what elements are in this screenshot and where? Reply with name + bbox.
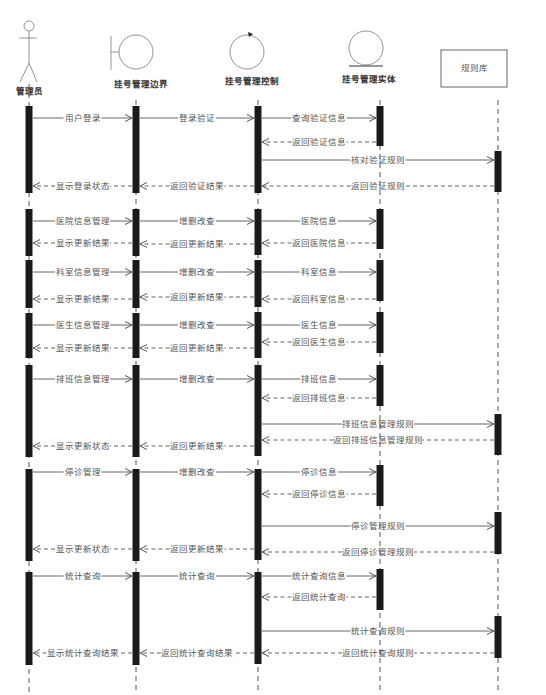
message-label: 排班信息管理规则 [342, 419, 414, 429]
message-label: 返回停诊管理规则 [342, 547, 414, 557]
message-label: 返回更新结果 [170, 343, 224, 353]
activation-bar-control [255, 469, 262, 560]
return-message-entity-to-control: 返回科室信息 [262, 294, 376, 304]
activation-bar-control [255, 209, 262, 255]
message-label: 显示统计查询结果 [47, 648, 119, 658]
return-message-control-to-boundary: 返回更新结果 [140, 292, 254, 302]
message-label: 返回统计查询结果 [161, 648, 233, 658]
activation-bar-entity [377, 312, 384, 353]
message-control-to-entity: 停诊信息 [262, 467, 376, 477]
activation-bar-control [255, 312, 262, 358]
activation-bar-admin [26, 260, 33, 308]
message-boundary-to-control: 登录验证 [140, 113, 254, 123]
message-control-to-rules: 统计查询规则 [262, 626, 494, 636]
entity-icon [349, 31, 383, 66]
message-label: 显示更新结果 [56, 343, 110, 353]
return-message-entity-to-control: 返回停诊信息 [262, 489, 376, 499]
message-label: 排班信息管理 [56, 374, 110, 384]
message-label: 返回停诊信息 [292, 489, 346, 499]
message-label: 返回医生信息 [292, 337, 346, 347]
message-label: 显示更新结果 [56, 238, 110, 248]
message-label: 显示更新状态 [56, 544, 110, 554]
message-label: 返回统计查询规则 [342, 648, 414, 658]
activation-bar-admin [26, 469, 33, 561]
message-label: 返回验证信息 [292, 137, 346, 147]
activation-bar-admin [26, 313, 33, 358]
message-label: 排班信息 [301, 374, 337, 384]
message-boundary-to-control: 增删改查 [140, 374, 254, 384]
message-control-to-entity: 医生信息 [262, 320, 376, 330]
activation-bar-admin [26, 106, 33, 193]
message-control-to-entity: 医院信息 [262, 216, 376, 226]
return-message-rules-to-control: 返回停诊管理规则 [262, 547, 494, 557]
message-label: 医生信息管理 [56, 320, 110, 330]
message-label: 返回更新结果 [170, 292, 224, 302]
message-control-to-entity: 排班信息 [262, 374, 376, 384]
return-message-entity-to-control: 返回验证信息 [262, 137, 376, 147]
activation-bar-entity [377, 209, 384, 249]
message-label: 登录验证 [179, 113, 215, 123]
return-message-entity-to-control: 返回排班信息 [262, 393, 376, 403]
message-label: 医院信息 [301, 216, 337, 226]
return-message-rules-to-control: 返回统计查询规则 [262, 648, 494, 658]
message-boundary-to-control: 统计查询 [140, 571, 254, 581]
message-label: 停诊信息 [301, 467, 337, 477]
message-label: 增删改查 [179, 267, 215, 277]
actor-icon [19, 21, 37, 82]
return-message-boundary-to-admin: 显示更新结果 [33, 343, 132, 353]
activation-bar-entity [377, 569, 384, 610]
return-message-boundary-to-admin: 显示统计查询结果 [33, 648, 132, 658]
message-label: 返回更新结果 [170, 441, 224, 451]
message-label: 返回验证规则 [351, 181, 405, 191]
activation-bar-boundary [133, 572, 140, 665]
message-label: 查询验证信息 [292, 113, 346, 123]
message-control-to-entity: 统计查询信息 [262, 571, 376, 581]
return-message-rules-to-control: 返回排班信息管理规则 [262, 435, 494, 445]
message-label: 返回验证结果 [170, 181, 224, 191]
message-label: 用户登录 [65, 113, 101, 123]
message-label: 医院信息管理 [56, 216, 110, 226]
message-label: 停诊管理 [65, 467, 101, 477]
message-label: 返回科室信息 [292, 294, 346, 304]
activation-bar-entity [377, 365, 384, 406]
message-label: 核对验证规则 [351, 155, 405, 165]
message-label: 返回统计查询 [292, 592, 346, 602]
message-label: 返回排班信息管理规则 [333, 435, 423, 445]
activation-bar-admin [26, 572, 33, 665]
activation-bar-rules [495, 512, 502, 554]
message-label: 统计查询规则 [351, 626, 405, 636]
participant-label-entity: 挂号管理实体 [342, 74, 396, 84]
message-label: 医生信息 [301, 320, 337, 330]
message-label: 停诊管理规则 [351, 521, 405, 531]
return-message-entity-to-control: 返回医院信息 [262, 238, 376, 248]
return-message-control-to-boundary: 返回更新结果 [140, 544, 254, 554]
activation-bar-control [255, 365, 262, 456]
return-message-control-to-boundary: 返回验证结果 [140, 181, 254, 191]
message-admin-to-boundary: 医院信息管理 [33, 216, 132, 226]
activation-bar-control [255, 572, 262, 664]
return-message-control-to-boundary: 返回更新结果 [140, 239, 254, 249]
message-label: 增删改查 [179, 216, 215, 226]
return-message-boundary-to-admin: 显示更新结果 [33, 238, 132, 248]
message-label: 统计查询 [179, 571, 215, 581]
activation-bar-boundary [133, 260, 140, 308]
activation-bar-boundary [133, 469, 140, 561]
message-admin-to-boundary: 统计查询 [33, 571, 132, 581]
message-boundary-to-control: 增删改查 [140, 320, 254, 330]
activation-bar-boundary [133, 313, 140, 358]
message-label: 显示更新状态 [56, 441, 110, 451]
return-message-rules-to-control: 返回验证规则 [262, 181, 494, 191]
participant-label-control: 挂号管理控制 [225, 76, 279, 86]
message-label: 统计查询信息 [292, 571, 346, 581]
message-admin-to-boundary: 医生信息管理 [33, 320, 132, 330]
message-admin-to-boundary: 排班信息管理 [33, 374, 132, 384]
activation-bar-entity [377, 465, 384, 506]
message-label: 增删改查 [179, 320, 215, 330]
return-message-entity-to-control: 返回统计查询 [262, 592, 376, 602]
message-label: 返回更新结果 [170, 239, 224, 249]
return-message-entity-to-control: 返回医生信息 [262, 337, 376, 347]
message-control-to-entity: 查询验证信息 [262, 113, 376, 123]
message-boundary-to-control: 增删改查 [140, 467, 254, 477]
activation-bar-admin [26, 365, 33, 457]
sequence-diagram: 管理员挂号管理边界挂号管理控制挂号管理实体规则库 用户登录登录验证查询验证信息返… [0, 0, 546, 695]
